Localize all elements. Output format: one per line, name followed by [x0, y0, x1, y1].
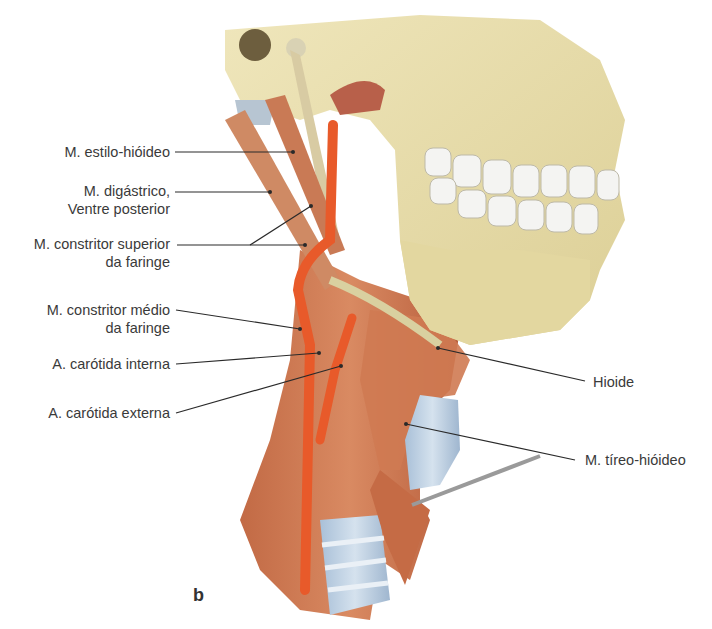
- label-hioide: Hioide: [593, 373, 634, 391]
- label-estilo-hioideo: M. estilo-hióideo: [64, 143, 170, 161]
- label-tireo-hioideo: M. tíreo-hióideo: [585, 451, 686, 469]
- label-text: M. tíreo-hióideo: [585, 452, 686, 468]
- label-text: A. carótida externa: [48, 405, 170, 421]
- label-text: Ventre posterior: [68, 200, 170, 218]
- label-text: M. estilo-hióideo: [64, 144, 170, 160]
- label-text: A. carótida interna: [52, 356, 170, 372]
- label-text: M. constritor médio: [47, 301, 170, 319]
- label-carotida-interna: A. carótida interna: [52, 355, 170, 373]
- label-text: Hioide: [593, 374, 634, 390]
- label-text: da faringe: [34, 253, 170, 271]
- label-constritor-superior: M. constritor superior da faringe: [34, 235, 170, 271]
- panel-letter: b: [193, 585, 204, 606]
- label-text: M. constritor superior: [34, 235, 170, 253]
- label-constritor-medio: M. constritor médio da faringe: [47, 301, 170, 337]
- trachea: [320, 515, 390, 615]
- label-carotida-externa: A. carótida externa: [48, 404, 170, 422]
- label-text: M. digástrico,: [68, 182, 170, 200]
- label-digastrico: M. digástrico, Ventre posterior: [68, 182, 170, 218]
- label-text: da faringe: [47, 319, 170, 337]
